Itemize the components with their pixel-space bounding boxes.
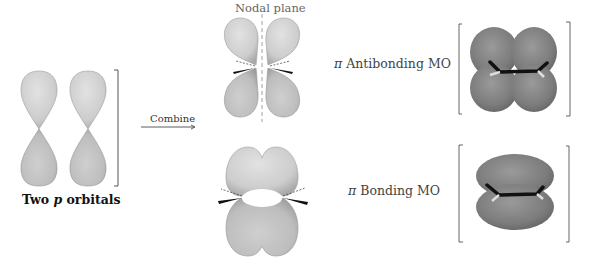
caption-suffix: orbitals bbox=[62, 192, 120, 207]
bonding-mo-model bbox=[459, 145, 569, 242]
antibonding-mo-label: π Antibonding MO bbox=[334, 56, 451, 71]
p-orbital-right bbox=[70, 71, 106, 186]
caption-prefix: Two bbox=[22, 192, 53, 207]
combine-label: Combine bbox=[150, 113, 195, 124]
combine-arrow bbox=[141, 125, 195, 129]
bonding-text: Bonding MO bbox=[356, 183, 440, 198]
antibonding-mo-model bbox=[459, 22, 570, 116]
bracket-right bbox=[114, 70, 118, 186]
p-orbital-pair bbox=[0, 0, 592, 260]
bonding-mo-label: π Bonding MO bbox=[348, 183, 440, 198]
two-p-orbitals-caption: Two p orbitals bbox=[22, 192, 121, 207]
caption-italic-p: p bbox=[53, 192, 62, 207]
antibonding-lobes bbox=[224, 18, 299, 117]
nodal-plane-label: Nodal plane bbox=[235, 1, 306, 15]
antibonding-text: Antibonding MO bbox=[342, 56, 451, 71]
pi-symbol: π bbox=[334, 56, 342, 71]
p-orbital-left bbox=[21, 71, 57, 186]
bonding-lobes bbox=[226, 147, 298, 256]
antibonding-bond-wedges bbox=[233, 61, 293, 74]
pi-symbol: π bbox=[348, 183, 356, 198]
